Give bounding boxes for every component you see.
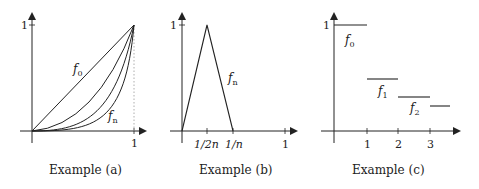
panel-c: 1 1 2 3 f0 f1 f2 Example (c) [321, 14, 459, 177]
x-tick-label-2: 2 [395, 138, 402, 151]
label-fn: fn [227, 71, 238, 87]
x-tick-label-3: 3 [427, 138, 434, 151]
label-f1: f1 [377, 84, 388, 100]
label-f0: f0 [72, 62, 83, 78]
x-tick-label-1: 1 [282, 138, 289, 151]
caption-c: Example (c) [352, 163, 425, 177]
y-tick-label: 1 [21, 19, 28, 32]
figure: 1 1 f0 fn Example (a) 1 1/2n 1/n 1 fn [0, 0, 479, 189]
panel-a: 1 1 f0 fn Example (a) [20, 14, 145, 177]
caption-a: Example (a) [49, 163, 122, 177]
x-tick-label-1: 1 [364, 138, 371, 151]
label-f2: f2 [409, 101, 420, 117]
panel-b: 1 1/2n 1/n 1 fn Example (b) [170, 14, 296, 177]
y-tick-label: 1 [170, 19, 177, 32]
x-tick-label-one-n: 1/n [225, 138, 243, 151]
y-tick-label: 1 [323, 19, 330, 32]
triangle-fn [182, 25, 233, 131]
x-tick-label: 1 [131, 137, 138, 150]
caption-b: Example (b) [199, 163, 273, 177]
label-f0: f0 [344, 33, 355, 49]
label-fn: fn [107, 109, 118, 125]
x-tick-label-half-n: 1/2n [194, 138, 219, 151]
